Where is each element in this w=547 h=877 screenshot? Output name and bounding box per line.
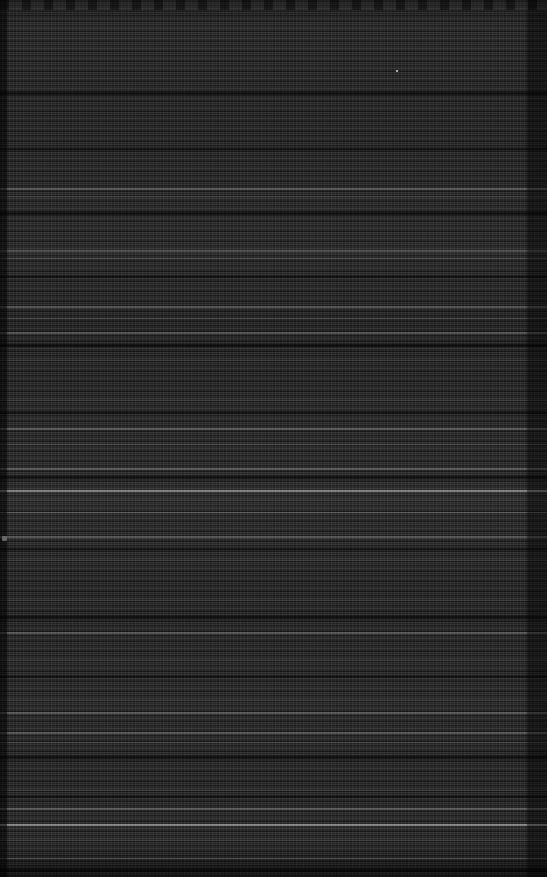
right-gutter: [527, 0, 547, 877]
left-gutter: [0, 0, 7, 877]
bright-speck-upper-right: [396, 70, 398, 72]
speck-artifacts: [0, 0, 547, 877]
top-header-blobs: [0, 0, 547, 10]
corrupted-screenshot-window: Severely corrupted dark application wind…: [0, 0, 547, 877]
